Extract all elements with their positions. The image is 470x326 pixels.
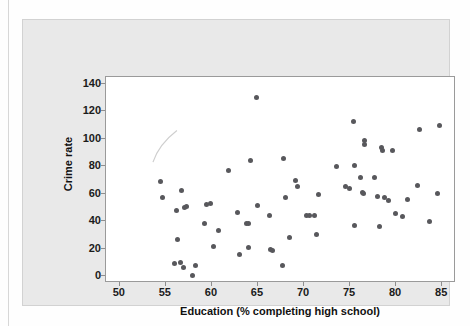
scatter-point	[246, 221, 251, 226]
scatter-point	[334, 164, 339, 169]
scatter-point	[179, 188, 184, 193]
x-tick-label: 55	[159, 286, 171, 298]
y-tick-label: 80	[89, 159, 101, 171]
scatter-point	[386, 198, 391, 203]
scatter-point	[208, 201, 213, 206]
scatter-point	[248, 158, 253, 163]
scatter-point	[427, 219, 432, 224]
scatter-point	[202, 221, 207, 226]
scatter-point	[400, 214, 405, 219]
scatter-point	[377, 224, 382, 229]
scatter-point	[316, 192, 321, 197]
scatter-point	[375, 194, 380, 199]
scatter-point	[361, 191, 366, 196]
scatter-point	[437, 123, 442, 128]
scatter-point	[181, 265, 186, 270]
scatter-point	[352, 163, 357, 168]
scatter-point	[226, 168, 231, 173]
scatter-point	[312, 213, 317, 218]
scatter-point	[255, 203, 260, 208]
scatter-point	[246, 245, 251, 250]
scatter-point	[267, 213, 272, 218]
y-axis-tick-labels: 020406080100120140	[69, 76, 101, 282]
scatter-point	[211, 244, 216, 249]
y-tick-label: 20	[89, 242, 101, 254]
x-tick-label: 50	[113, 286, 125, 298]
scatter-point	[190, 273, 195, 278]
x-tick-label: 85	[435, 286, 447, 298]
y-tick-label: 120	[83, 104, 101, 116]
scatter-point	[314, 232, 319, 237]
y-tick-label: 140	[83, 77, 101, 89]
scatter-point	[184, 204, 189, 209]
scatter-point	[372, 175, 377, 180]
scatter-point	[254, 95, 259, 100]
scatter-point	[351, 119, 356, 124]
scatter-point	[193, 263, 198, 268]
scatter-point	[393, 211, 398, 216]
scatter-point	[158, 179, 163, 184]
scatter-point	[358, 175, 363, 180]
scatter-point	[281, 156, 286, 161]
scatter-point	[216, 228, 221, 233]
scatter-point	[352, 223, 357, 228]
figure-root: Crime rate 020406080100120140 5055606570…	[0, 0, 470, 326]
scatter-point	[417, 127, 422, 132]
scatter-point	[172, 261, 177, 266]
x-tick-label: 60	[205, 286, 217, 298]
x-tick-label: 70	[297, 286, 309, 298]
y-tick-label: 60	[89, 187, 101, 199]
scatter-point	[270, 248, 275, 253]
scan-edge-line	[8, 0, 9, 326]
scatter-point	[415, 183, 420, 188]
scatter-point	[175, 237, 180, 242]
scatter-point	[435, 191, 440, 196]
y-tick-label: 40	[89, 214, 101, 226]
scatter-point	[283, 195, 288, 200]
x-axis-title: Education (% completing high school)	[105, 305, 455, 317]
scatter-point	[235, 210, 240, 215]
x-tick-label: 75	[343, 286, 355, 298]
scatter-point	[174, 208, 179, 213]
scatter-point	[380, 148, 385, 153]
scatter-point	[347, 186, 352, 191]
x-tick-label: 80	[389, 286, 401, 298]
chart-panel: Crime rate 020406080100120140 5055606570…	[22, 19, 450, 306]
y-tick-label: 100	[83, 132, 101, 144]
scatter-point	[237, 252, 242, 257]
scatter-point	[160, 195, 165, 200]
plot-area[interactable]	[105, 76, 455, 282]
x-tick-label: 65	[251, 286, 263, 298]
x-axis-tick-labels: 5055606570758085	[105, 286, 455, 302]
scatter-point	[405, 197, 410, 202]
scatter-point	[362, 142, 367, 147]
scatter-point	[287, 235, 292, 240]
scatter-point	[295, 184, 300, 189]
scatter-point	[280, 263, 285, 268]
scatter-point	[293, 178, 298, 183]
scatter-point	[390, 148, 395, 153]
